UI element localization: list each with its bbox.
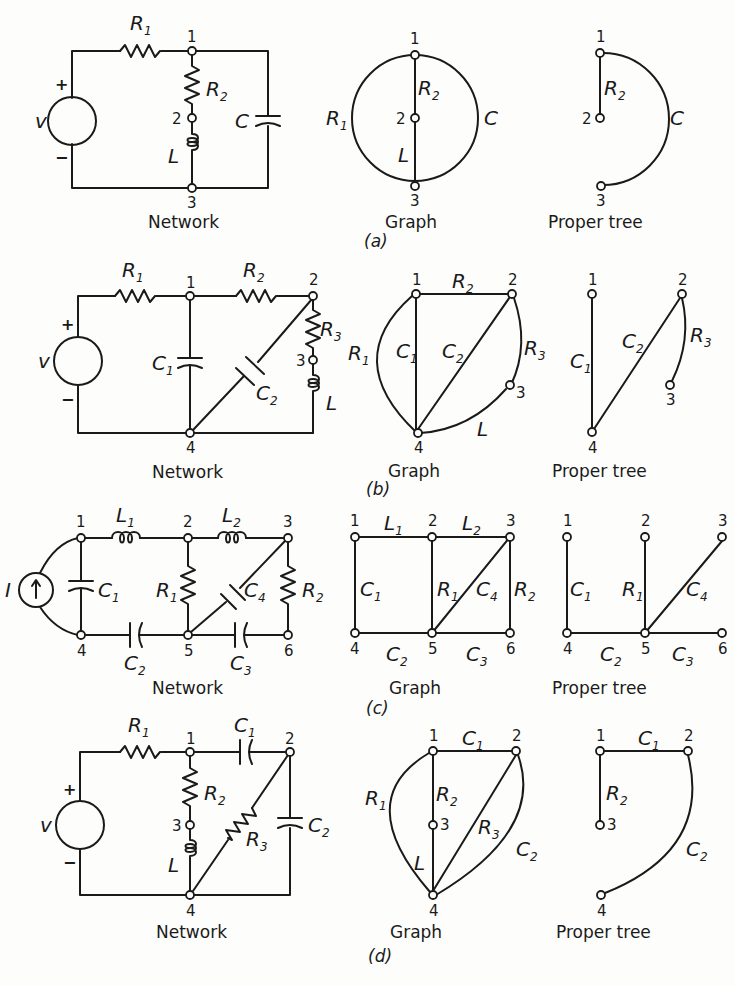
svg-text:R1: R1 [122, 258, 144, 285]
svg-text:L1: L1 [384, 511, 403, 538]
svg-text:+: + [61, 315, 74, 334]
svg-text:C4: C4 [476, 577, 498, 604]
caption-network-b: Network [152, 462, 223, 482]
caption-network-a: Network [148, 212, 219, 232]
svg-text:R3: R3 [690, 323, 712, 350]
svg-text:4: 4 [186, 439, 196, 457]
capacitor-c [256, 116, 280, 126]
svg-text:3: 3 [516, 384, 526, 402]
svg-text:3: 3 [410, 192, 420, 210]
svg-text:C2: C2 [256, 381, 278, 408]
caption-network-d: Network [156, 922, 227, 942]
svg-text:L: L [326, 391, 337, 415]
svg-text:R1: R1 [128, 713, 150, 740]
svg-text:C1: C1 [570, 349, 592, 376]
svg-text:C1: C1 [396, 339, 418, 366]
part-label-c: (c) [366, 698, 389, 718]
svg-text:3: 3 [718, 512, 728, 530]
svg-text:4: 4 [77, 642, 87, 660]
svg-text:R2: R2 [604, 76, 626, 103]
svg-text:R2: R2 [243, 258, 265, 285]
svg-text:3: 3 [506, 512, 516, 530]
svg-text:1: 1 [412, 271, 422, 289]
caption-tree-d: Proper tree [556, 922, 651, 942]
svg-text:2: 2 [582, 110, 592, 128]
label-c: C [235, 109, 249, 133]
caption-graph-c: Graph [389, 678, 441, 698]
svg-text:C2: C2 [386, 642, 408, 669]
tree-c: 1 2 3 4 5 6 C1 R1 C4 C2 C3 Proper tree [552, 512, 728, 698]
resistor-r2 [185, 55, 199, 114]
network-d: + − v 1 2 3 4 R1 C1 R2 R3 C2 L Network [40, 713, 330, 942]
svg-text:C2: C2 [442, 339, 464, 366]
inductor-l1 [112, 532, 140, 543]
svg-text:4: 4 [563, 640, 573, 658]
svg-text:R2: R2 [606, 781, 628, 808]
svg-text:4: 4 [597, 902, 607, 920]
capacitor-c2 [278, 756, 302, 828]
resistor-r1 [120, 45, 160, 57]
caption-graph-d: Graph [390, 922, 442, 942]
svg-text:R2: R2 [302, 578, 324, 605]
svg-text:C2: C2 [308, 813, 330, 840]
svg-text:R1: R1 [156, 578, 178, 605]
voltage-source-v [56, 801, 104, 849]
svg-text:5: 5 [641, 640, 651, 658]
node-2 [188, 114, 196, 122]
graph-c: 1 2 3 4 5 6 L1 L2 C1 R1 C4 R2 C2 C3 Grap… [350, 511, 536, 718]
inductor-l [188, 122, 199, 184]
node-3 [188, 184, 196, 192]
svg-text:C1: C1 [360, 577, 382, 604]
svg-text:3: 3 [596, 192, 606, 210]
figure-canvas: + − v 1 2 3 R1 R2 L C Network 1 [0, 0, 735, 986]
svg-text:−: − [55, 148, 68, 167]
svg-text:2: 2 [309, 271, 319, 289]
network-a: + − v 1 2 3 R1 R2 L C Network [35, 11, 280, 232]
label-r2: R2 [206, 77, 228, 104]
resistor-r2 [183, 756, 197, 821]
svg-text:5: 5 [184, 642, 194, 660]
voltage-source-v [48, 97, 96, 145]
svg-text:C3: C3 [672, 642, 694, 669]
svg-text:2: 2 [684, 727, 694, 745]
resistor-r1 [115, 290, 155, 302]
svg-text:C2: C2 [600, 642, 622, 669]
svg-text:2: 2 [396, 110, 406, 128]
svg-text:v: v [40, 813, 53, 837]
svg-text:C3: C3 [230, 651, 252, 678]
svg-text:C1: C1 [462, 726, 484, 753]
inductor-l [186, 829, 197, 891]
tree-a: 1 2 3 R2 C Proper tree [548, 28, 684, 232]
svg-text:L: L [477, 417, 488, 441]
tree-d: 1 2 3 4 C1 R2 C2 Proper tree [556, 726, 708, 942]
svg-text:R1: R1 [348, 341, 370, 368]
svg-text:5: 5 [428, 640, 438, 658]
svg-text:R3: R3 [478, 815, 500, 842]
svg-text:L2: L2 [462, 511, 481, 538]
svg-text:1: 1 [588, 271, 598, 289]
svg-text:1: 1 [563, 512, 573, 530]
caption-tree-c: Proper tree [552, 678, 647, 698]
svg-text:R2: R2 [452, 269, 474, 296]
svg-text:−: − [61, 390, 74, 409]
svg-text:C2: C2 [516, 837, 538, 864]
svg-text:L2: L2 [222, 503, 241, 530]
part-d: + − v 1 2 3 4 R1 C1 R2 R3 C2 L Network [40, 713, 708, 966]
svg-text:4: 4 [588, 439, 598, 457]
svg-text:4: 4 [350, 640, 360, 658]
resistor-r1 [120, 746, 160, 758]
svg-text:1: 1 [187, 28, 197, 46]
svg-text:C2: C2 [124, 651, 146, 678]
svg-text:2: 2 [183, 513, 193, 531]
svg-text:C3: C3 [466, 642, 488, 669]
inductor-l [309, 364, 320, 433]
svg-text:L: L [398, 143, 409, 167]
svg-text:v: v [35, 109, 48, 133]
svg-text:R2: R2 [436, 782, 458, 809]
part-label-d: (d) [368, 946, 392, 966]
svg-text:R2: R2 [204, 781, 226, 808]
svg-text:L: L [414, 851, 425, 875]
capacitor-c4 [221, 585, 245, 609]
part-label-b: (b) [366, 479, 390, 499]
caption-graph-b: Graph [388, 461, 440, 481]
